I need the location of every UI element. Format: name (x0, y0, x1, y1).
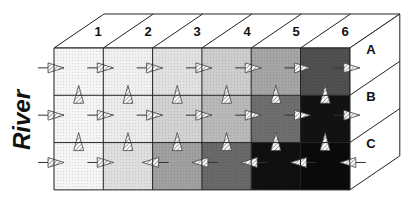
river-label: River (2, 80, 42, 160)
row-label-b: B (361, 89, 381, 104)
column-label-6: 6 (335, 24, 355, 39)
column-label-4: 4 (237, 24, 257, 39)
flow-box-diagram: River 1 2 3 4 5 6 A B C (0, 0, 408, 204)
column-label-5: 5 (286, 24, 306, 39)
river-label-text: River (8, 90, 36, 150)
column-label-3: 3 (187, 24, 207, 39)
row-label-c: C (361, 136, 381, 151)
row-label-a: A (361, 42, 381, 57)
column-label-1: 1 (88, 24, 108, 39)
column-label-2: 2 (138, 24, 158, 39)
